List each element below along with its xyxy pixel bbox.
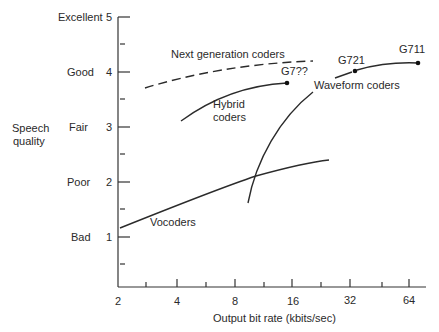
g7xx-marker bbox=[285, 81, 290, 86]
x-axis-title: Output bit rate (kbits/sec) bbox=[213, 312, 336, 324]
g7xx-label: G7?? bbox=[281, 65, 308, 77]
y-tick-3: 3 bbox=[106, 121, 112, 133]
g711-marker bbox=[416, 61, 421, 66]
hybrid-coders-label-line1: Hybrid bbox=[213, 98, 245, 110]
next-generation-coders-label: Next generation coders bbox=[171, 48, 285, 60]
g721-label: G721 bbox=[338, 54, 365, 66]
y-axis bbox=[118, 17, 130, 287]
y-tick-1: 1 bbox=[106, 231, 112, 243]
x-tick-64: 64 bbox=[403, 294, 415, 306]
y-tick-4: 4 bbox=[106, 66, 112, 78]
y-tick-5: 5 bbox=[106, 11, 112, 23]
quality-label-fair: Fair bbox=[69, 121, 88, 133]
x-axis bbox=[118, 279, 426, 287]
waveform-coders-curve-mid bbox=[335, 72, 352, 78]
x-tick-8: 8 bbox=[232, 295, 238, 307]
x-tick-2: 2 bbox=[115, 295, 121, 307]
g721-marker bbox=[353, 69, 358, 74]
x-tick-16: 16 bbox=[287, 295, 299, 307]
waveform-coders-curve-upper bbox=[357, 63, 418, 70]
quality-label-poor: Poor bbox=[67, 176, 91, 188]
x-tick-4: 4 bbox=[174, 295, 180, 307]
quality-label-excellent: Excellent bbox=[58, 11, 103, 23]
y-axis-title-line2: quality bbox=[13, 135, 45, 147]
y-axis-title-line1: Speech bbox=[12, 122, 49, 134]
x-tick-32: 32 bbox=[344, 294, 356, 306]
waveform-coders-curve bbox=[248, 92, 313, 203]
hybrid-coders-label-line2: coders bbox=[213, 111, 247, 123]
vocoders-label: Vocoders bbox=[150, 216, 196, 228]
quality-label-good: Good bbox=[67, 66, 94, 78]
g711-label: G711 bbox=[399, 43, 425, 55]
quality-label-bad: Bad bbox=[71, 231, 91, 243]
y-tick-2: 2 bbox=[106, 176, 112, 188]
speech-quality-chart: Speech quality Excellent Good Fair Poor … bbox=[0, 0, 439, 332]
waveform-coders-label: Waveform coders bbox=[314, 79, 400, 91]
